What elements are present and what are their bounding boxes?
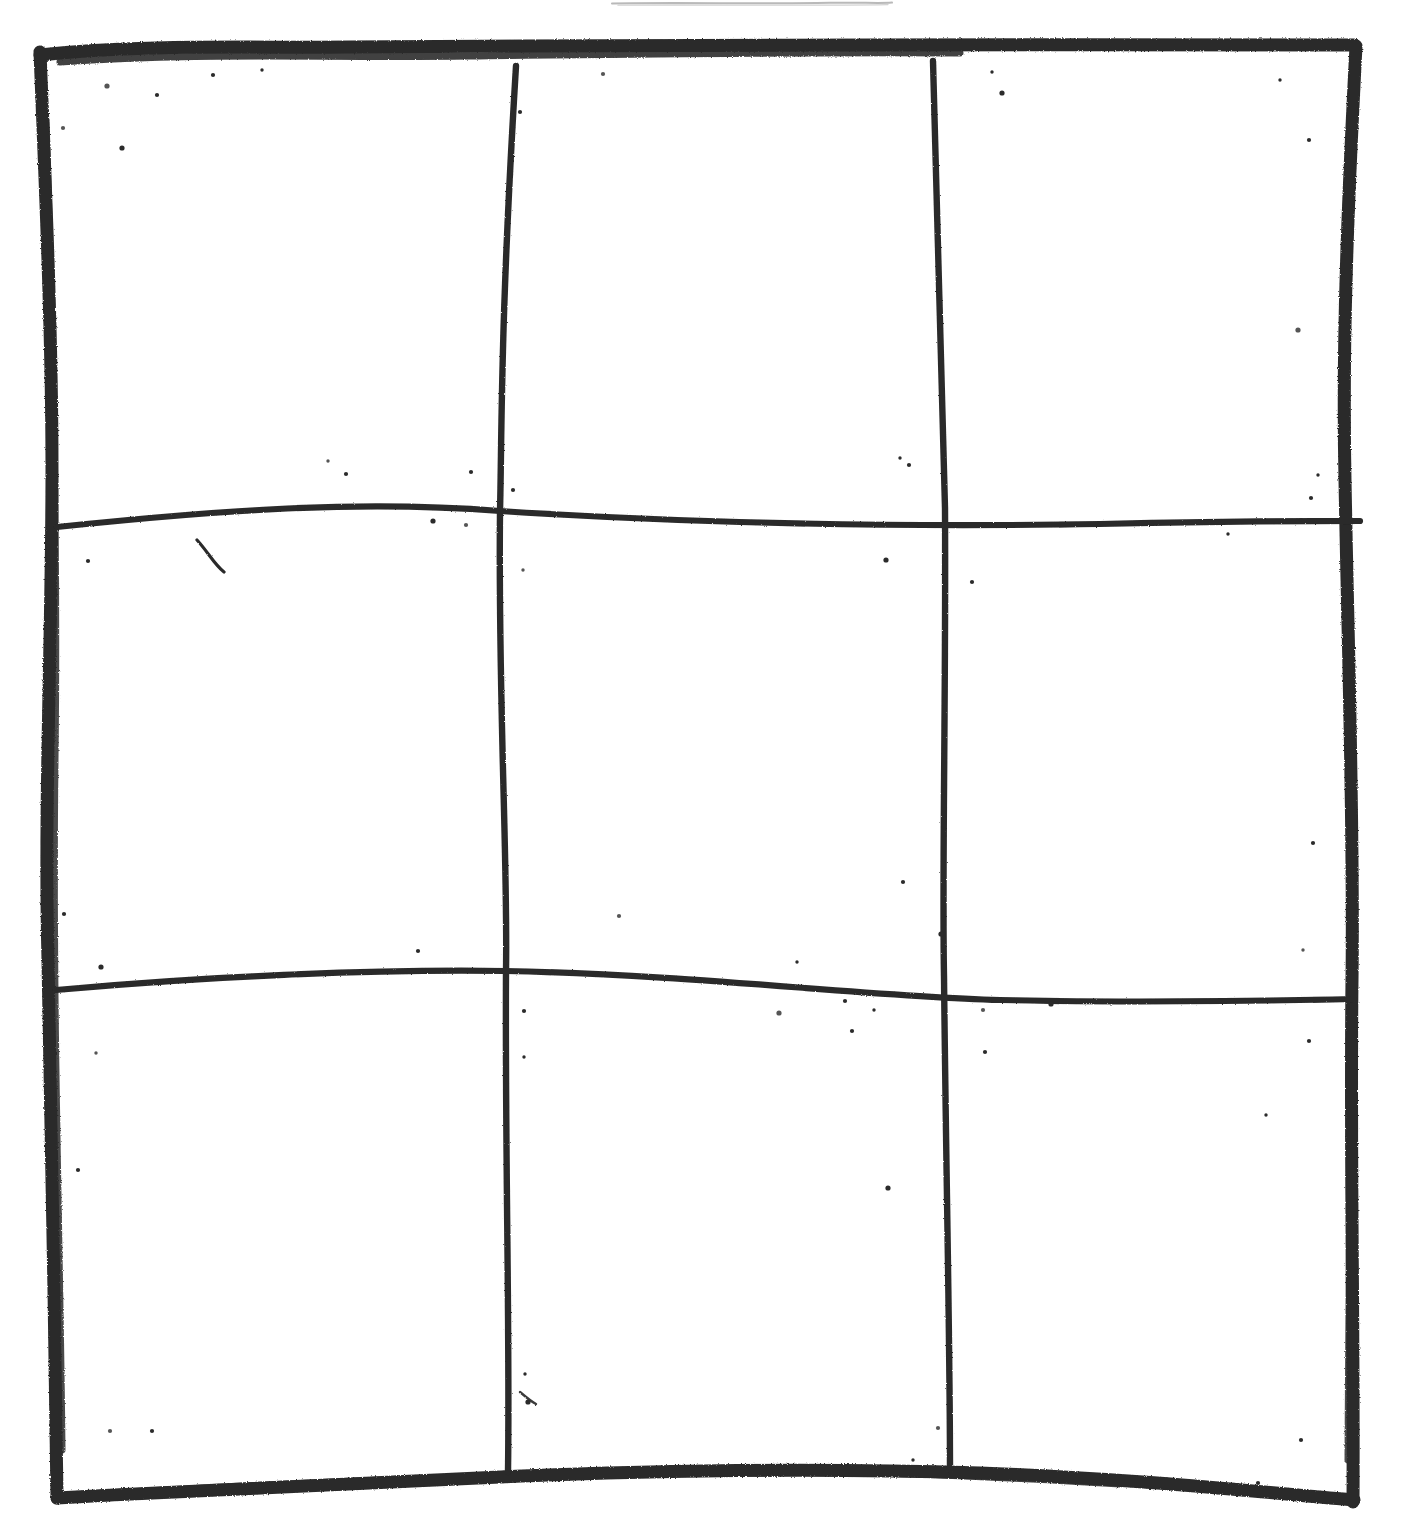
cell-bottom-right[interactable] xyxy=(950,1002,1348,1482)
cell-middle-left[interactable] xyxy=(55,520,505,975)
cell-top-center[interactable] xyxy=(515,55,935,510)
cell-middle-right[interactable] xyxy=(948,515,1346,995)
cell-bottom-left[interactable] xyxy=(56,980,501,1475)
cell-middle-center[interactable] xyxy=(510,515,940,980)
cell-bottom-center[interactable] xyxy=(512,978,942,1468)
drawing-canvas xyxy=(0,0,1401,1540)
cell-top-left[interactable] xyxy=(60,60,510,510)
cell-top-right[interactable] xyxy=(945,52,1345,512)
